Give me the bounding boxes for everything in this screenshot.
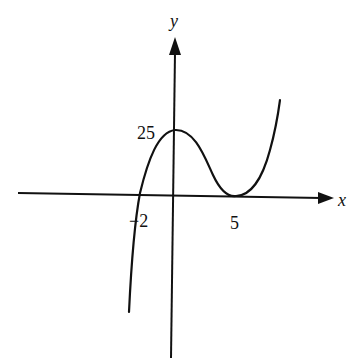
y-axis-label: y [168,11,178,31]
root-right-label: 5 [230,213,239,233]
y-intercept-label: 25 [137,123,155,143]
cubic-graph: y x 25 −2 5 [0,0,362,363]
x-axis-arrow-icon [318,192,334,204]
x-axis-label: x [337,190,346,210]
y-axis [171,52,175,358]
root-left-label: −2 [129,211,148,231]
x-axis [18,193,322,198]
y-axis-arrow-icon [169,37,181,55]
